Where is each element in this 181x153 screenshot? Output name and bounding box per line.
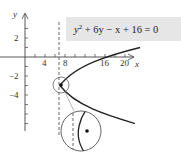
- magnified-view: [61, 108, 101, 153]
- y-axis-label: y: [12, 9, 17, 19]
- y-tick-neg4: −4: [9, 90, 19, 100]
- y-tick-2: 2: [14, 33, 19, 43]
- x-axis-label: x: [134, 59, 139, 69]
- y-axis: y 2 −2 −4: [9, 9, 28, 131]
- parabola-diagram: y2 + 6y − x + 16 = 0 y 2 −2 −4 x: [0, 0, 181, 153]
- x-tick-8: 8: [63, 58, 68, 68]
- equation-text: y2 + 6y − x + 16 = 0: [73, 23, 158, 35]
- y-tick-neg2: −2: [9, 71, 19, 81]
- x-tick-20: 20: [120, 58, 130, 68]
- magnified-point: [85, 129, 89, 133]
- x-tick-4: 4: [42, 58, 47, 68]
- vertex-point: [59, 83, 63, 87]
- x-axis: x 4 8 16 20: [0, 54, 139, 69]
- equation-box: y2 + 6y − x + 16 = 0: [66, 17, 181, 41]
